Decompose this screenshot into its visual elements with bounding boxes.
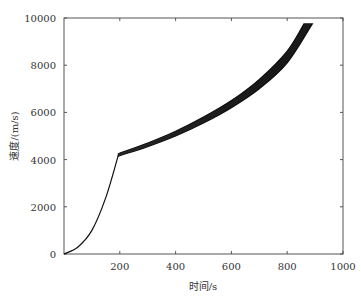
plot-frame bbox=[64, 18, 343, 254]
velocity-time-chart: 2004006008001000 0200040006000800010000 … bbox=[0, 0, 361, 306]
y-axis-label: 速度/(m/s) bbox=[8, 111, 20, 160]
data-lines bbox=[64, 155, 118, 254]
y-tick-label: 0 bbox=[50, 249, 56, 260]
x-tick-label: 1000 bbox=[330, 261, 355, 272]
y-tick-label: 4000 bbox=[31, 155, 56, 166]
x-tick-label: 200 bbox=[110, 261, 129, 272]
x-tick-label: 800 bbox=[278, 261, 297, 272]
y-tick-label: 6000 bbox=[31, 107, 56, 118]
y-tick-label: 2000 bbox=[31, 202, 56, 213]
x-tick-label: 400 bbox=[166, 261, 185, 272]
y-tick-label: 10000 bbox=[24, 13, 56, 24]
x-tick-label: 600 bbox=[222, 261, 241, 272]
x-axis-label: 时间/s bbox=[189, 280, 218, 292]
dispersion-band bbox=[118, 24, 312, 156]
y-tick-label: 8000 bbox=[31, 60, 56, 71]
